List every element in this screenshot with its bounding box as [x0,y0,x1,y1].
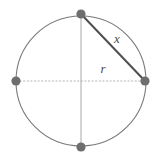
point-marker-top [76,9,85,18]
circle-chord-diagram: x r [0,0,158,162]
point-marker-bottom [76,142,85,151]
chord-length-label: x [113,31,120,46]
point-marker-left [11,76,20,85]
geometry-diagram-figure: x r [0,0,158,162]
point-marker-right [140,76,149,85]
